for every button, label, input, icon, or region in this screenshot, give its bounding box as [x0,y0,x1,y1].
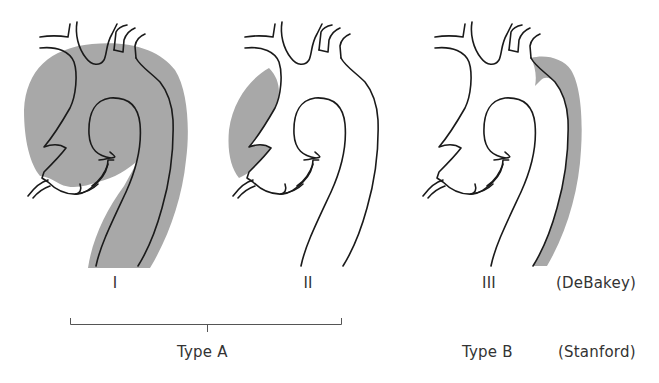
label-stanford: (Stanford) [558,343,636,361]
label-debakey-iii: III [482,274,496,292]
dissection-shading [531,57,582,267]
label-debakey: (DeBakey) [556,274,636,292]
label-type-a: Type A [177,343,228,361]
figure-debakey-ii [228,22,378,266]
dissection-shading [228,68,278,178]
label-type-b: Type B [462,343,513,361]
aorta-diagram [0,0,659,383]
figure-debakey-i [24,22,188,268]
label-debakey-ii: II [303,274,312,292]
label-debakey-i: I [113,274,118,292]
type-a-bracket [71,318,342,332]
figure-debakey-iii [423,22,582,266]
